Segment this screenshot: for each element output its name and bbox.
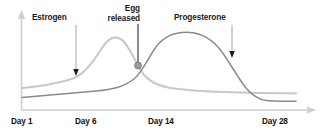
egg-released-label: Egg released — [92, 4, 140, 23]
x-tick-label-day-14: Day 14 — [148, 117, 174, 127]
estrogen-annotation-arrow — [73, 25, 79, 76]
y-axis-arrowhead — [18, 10, 25, 19]
x-tick-label-day-6: Day 6 — [75, 117, 96, 127]
progesterone-annotation-arrow — [229, 25, 235, 58]
egg-released-marker — [135, 62, 142, 69]
estrogen-label: Estrogen — [32, 13, 67, 23]
progesterone-label: Progesterone — [174, 13, 226, 23]
x-tick-label-day-28: Day 28 — [262, 117, 288, 127]
egg-released-label-line2: released — [108, 14, 140, 23]
x-axis — [22, 106, 317, 114]
x-tick-label-day-1: Day 1 — [11, 117, 32, 127]
progesterone-arrowhead — [229, 51, 235, 58]
x-axis-arrowhead — [307, 106, 316, 114]
estrogen-curve — [22, 37, 296, 93]
progesterone-curve — [22, 32, 296, 101]
hormone-cycle-chart: Estrogen Egg released Progesterone Day 1… — [0, 0, 329, 134]
egg-released-label-line1: Egg — [125, 4, 140, 13]
y-axis — [18, 10, 25, 111]
